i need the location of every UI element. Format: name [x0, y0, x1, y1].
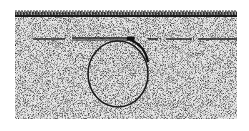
grass-surface: [15, 9, 237, 17]
soil-region: [15, 11, 237, 119]
soil-diagram: [0, 0, 249, 131]
